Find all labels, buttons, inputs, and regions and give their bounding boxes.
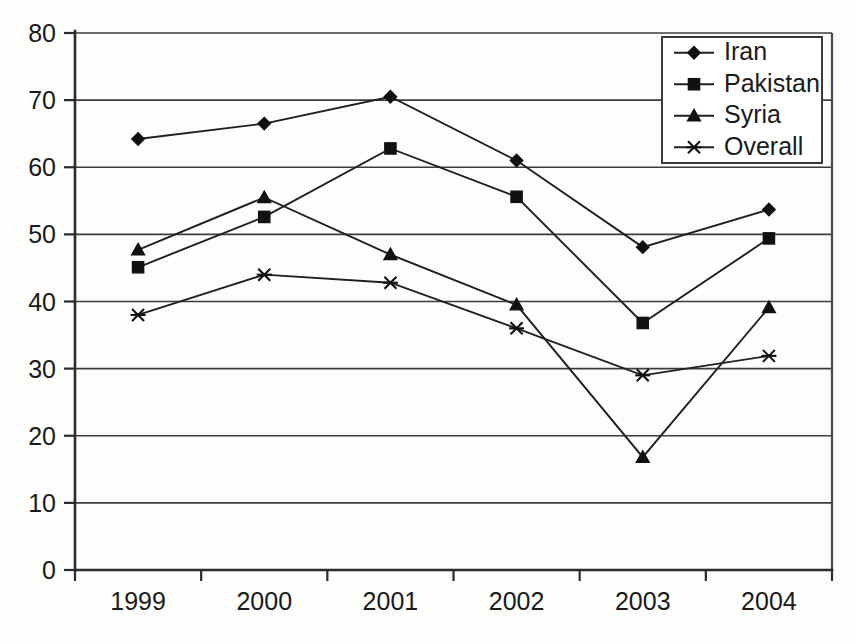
data-point-syria-2001	[384, 248, 397, 259]
data-point-iran-2001	[384, 91, 396, 103]
data-point-iran-1999	[132, 133, 144, 145]
data-point-overall-2003	[635, 369, 650, 381]
y-tick-label: 20	[28, 422, 56, 450]
data-point-iran-2003	[637, 241, 649, 253]
data-point-overall-2004	[761, 350, 776, 362]
y-tick-label: 0	[42, 556, 56, 584]
x-tick-label-2003: 2003	[615, 587, 671, 615]
x-tick-label-2004: 2004	[741, 587, 797, 615]
data-point-pakistan-2003	[637, 317, 648, 328]
data-point-syria-2004	[763, 301, 776, 312]
y-tick-label: 70	[28, 86, 56, 114]
series-line-pakistan	[138, 148, 769, 323]
square-icon	[688, 79, 699, 90]
data-point-syria-1999	[132, 243, 145, 254]
y-tick-label: 80	[28, 19, 56, 47]
data-point-overall-1999	[131, 309, 146, 321]
data-point-syria-2002	[510, 298, 523, 309]
data-point-pakistan-2002	[511, 191, 522, 202]
chart-legend: IranPakistanSyriaOverall	[662, 37, 822, 163]
data-point-pakistan-2004	[763, 233, 774, 244]
legend-label-syria: Syria	[724, 100, 781, 128]
series-line-syria	[138, 197, 769, 457]
y-tick-label: 40	[28, 288, 56, 316]
y-tick-label: 60	[28, 153, 56, 181]
legend-label-overall: Overall	[724, 132, 803, 160]
data-point-syria-2000	[258, 191, 271, 202]
line-chart: 01020304050607080 1999200020012002200320…	[0, 0, 854, 644]
x-tick-label-1999: 1999	[110, 587, 166, 615]
x-tick-label-2002: 2002	[489, 587, 545, 615]
data-point-pakistan-2001	[385, 143, 396, 154]
data-point-iran-2000	[258, 117, 270, 129]
y-tick-label: 50	[28, 220, 56, 248]
legend-label-iran: Iran	[724, 37, 767, 65]
data-point-iran-2004	[763, 203, 775, 215]
data-point-overall-2002	[509, 322, 524, 334]
data-point-pakistan-2000	[259, 211, 270, 222]
series-overall	[131, 269, 777, 382]
data-point-overall-2000	[257, 269, 272, 281]
x-tick-label-2000: 2000	[236, 587, 292, 615]
x-tick-label-2001: 2001	[363, 587, 419, 615]
y-tick-label: 30	[28, 355, 56, 383]
y-axis-ticks: 01020304050607080	[28, 19, 75, 584]
x-axis-ticks: 199920002001200220032004	[75, 570, 832, 615]
data-point-overall-2001	[383, 277, 398, 289]
data-point-pakistan-1999	[132, 262, 143, 273]
chart-canvas: 01020304050607080 1999200020012002200320…	[0, 0, 854, 644]
series-line-overall	[138, 275, 769, 376]
data-point-iran-2002	[510, 154, 522, 166]
legend-label-pakistan: Pakistan	[724, 69, 820, 97]
y-tick-label: 10	[28, 489, 56, 517]
